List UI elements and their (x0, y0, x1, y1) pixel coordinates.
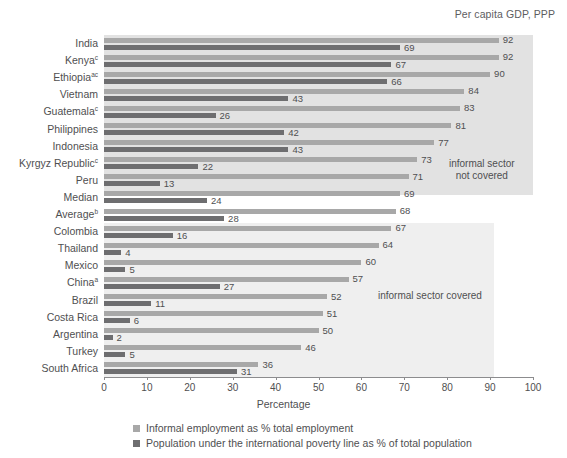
legend-swatch-informal_employment (133, 425, 140, 432)
bar-value-poverty: 27 (224, 282, 235, 292)
bar-value-informal-employment: 77 (438, 138, 449, 148)
category-label: India (0, 38, 98, 49)
bar-value-poverty: 2 (117, 333, 122, 343)
category-label: South Africa (0, 363, 98, 374)
bar-informal-employment (104, 140, 434, 145)
x-tick-mark (147, 377, 148, 380)
category-footnote-marker: c (95, 105, 98, 112)
category-label: Turkey (0, 346, 98, 357)
chart-container: Per capita GDP, PPP IndiaKenyacEthiopiaa… (0, 0, 567, 458)
category-label-text: Median (64, 191, 98, 203)
bar-row: 502 (104, 326, 533, 343)
legend-label: Informal employment as % total employmen… (146, 422, 353, 434)
category-label-text: Colombia (54, 225, 98, 237)
bar-value-poverty: 11 (155, 299, 165, 309)
bar-poverty (104, 267, 125, 272)
category-label-text: Philippines (47, 123, 98, 135)
bar-row: 9269 (104, 35, 533, 52)
bar-value-informal-employment: 83 (464, 103, 475, 113)
bar-poverty (104, 113, 216, 118)
region-label-not-covered-line2: not covered (456, 170, 508, 181)
category-footnote-marker: ac (91, 71, 98, 78)
bar-value-informal-employment: 36 (262, 360, 273, 370)
x-tick-label: 100 (525, 382, 542, 393)
bar-value-poverty: 43 (292, 94, 303, 104)
bar-value-informal-employment: 67 (395, 223, 406, 233)
x-axis-label: Percentage (0, 398, 567, 410)
bar-informal-employment (104, 157, 417, 162)
bar-value-informal-employment: 92 (503, 35, 514, 45)
category-label: Brazil (0, 295, 98, 306)
bar-poverty (104, 250, 121, 255)
category-label-text: Kyrgyz Republic (19, 157, 95, 169)
bar-row: 605 (104, 257, 533, 274)
category-label: Guatemalac (0, 106, 98, 117)
legend-item[interactable]: Population under the international pover… (133, 436, 433, 450)
plot-area: 9269926790668443832681427743732271136924… (104, 35, 533, 377)
bar-value-informal-employment: 90 (494, 69, 505, 79)
bar-value-poverty: 66 (391, 77, 402, 87)
category-label: Peru (0, 175, 98, 186)
bar-row: 9267 (104, 52, 533, 69)
bar-value-informal-employment: 46 (305, 343, 316, 353)
bar-value-poverty: 13 (164, 179, 175, 189)
category-label: Ethiopiaac (0, 72, 98, 83)
category-footnote-marker: a (94, 276, 98, 283)
category-label-text: Indonesia (52, 140, 98, 152)
bar-row: 9066 (104, 69, 533, 86)
category-label: Chinaa (0, 277, 98, 288)
bar-poverty (104, 216, 224, 221)
bar-informal-employment (104, 243, 379, 248)
x-tick-mark (190, 377, 191, 380)
category-label: Colombia (0, 226, 98, 237)
bar-value-informal-employment: 68 (400, 206, 411, 216)
legend-item[interactable]: Informal employment as % total employmen… (133, 421, 433, 435)
x-tick-mark (490, 377, 491, 380)
category-label-text: Guatemala (43, 105, 94, 117)
gdp-axis-note: Per capita GDP, PPP (455, 8, 555, 20)
chart-legend: Informal employment as % total employmen… (133, 421, 433, 451)
bar-value-poverty: 22 (202, 162, 213, 172)
bar-poverty (104, 369, 237, 374)
bar-informal-employment (104, 260, 361, 265)
region-label-covered: informal sector covered (378, 290, 482, 302)
bar-poverty (104, 233, 173, 238)
bar-row: 5727 (104, 274, 533, 291)
x-tick-mark (404, 377, 405, 380)
bar-row: 7743 (104, 138, 533, 155)
bar-value-poverty: 42 (288, 128, 299, 138)
x-tick-label: 70 (399, 382, 410, 393)
category-label: Mexico (0, 260, 98, 271)
category-label: Median (0, 192, 98, 203)
bar-poverty (104, 62, 391, 67)
bar-poverty (104, 284, 220, 289)
category-label-text: Costa Rica (47, 311, 98, 323)
bar-value-poverty: 6 (134, 316, 139, 326)
x-tick-mark (319, 377, 320, 380)
bar-informal-employment (104, 89, 464, 94)
x-tick-label: 90 (485, 382, 496, 393)
bar-value-informal-employment: 84 (468, 86, 479, 96)
bar-rows: 9269926790668443832681427743732271136924… (104, 35, 533, 377)
category-label-text: Peru (76, 174, 98, 186)
x-tick-mark (361, 377, 362, 380)
region-label-not-covered-line1: informal sector (449, 158, 515, 169)
bar-value-poverty: 24 (211, 196, 222, 206)
bar-row: 8443 (104, 86, 533, 103)
x-tick-label: 20 (184, 382, 195, 393)
category-label: Thailand (0, 243, 98, 254)
bar-poverty (104, 181, 160, 186)
bar-informal-employment (104, 72, 490, 77)
bar-informal-employment (104, 38, 499, 43)
bar-value-poverty: 31 (241, 367, 252, 377)
x-tick-label: 10 (141, 382, 152, 393)
bar-value-informal-employment: 60 (365, 257, 376, 267)
category-label: Philippines (0, 124, 98, 135)
category-axis: IndiaKenyacEthiopiaacVietnamGuatemalacPh… (0, 35, 98, 377)
bar-value-poverty: 69 (404, 43, 415, 53)
category-label-text: Argentina (53, 328, 98, 340)
x-tick-label: 30 (227, 382, 238, 393)
legend-label: Population under the international pover… (146, 437, 472, 449)
bar-poverty (104, 335, 113, 340)
bar-informal-employment (104, 191, 400, 196)
